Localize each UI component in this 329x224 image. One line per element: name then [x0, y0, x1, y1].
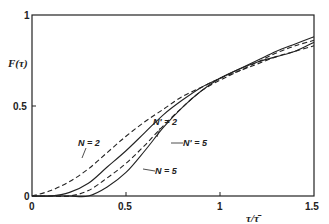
x-axis-label: τ/τ̄: [246, 212, 262, 224]
label-n2: N = 2: [78, 138, 100, 148]
y-axis-label: F(τ): [7, 57, 28, 70]
x-tick-label-1: 1: [217, 201, 223, 212]
label-n5: N = 5: [155, 166, 178, 176]
label-np2: N' = 2: [153, 117, 177, 127]
chart: 1 0.5 0 0 0.5 1 1.5 F(τ) τ/τ̄ N = 2 N' =…: [0, 0, 329, 224]
y-tick-label-0.5: 0.5: [13, 101, 27, 112]
x-tick-label-1.5: 1.5: [305, 201, 319, 212]
curve-labels: [82, 128, 183, 171]
x-tick-label-0: 0: [29, 201, 35, 212]
x-ticks: [126, 192, 220, 196]
label-np5: N' = 5: [183, 138, 208, 148]
y-tick-label-1: 1: [24, 10, 30, 21]
x-tick-label-0.5: 0.5: [118, 201, 132, 212]
